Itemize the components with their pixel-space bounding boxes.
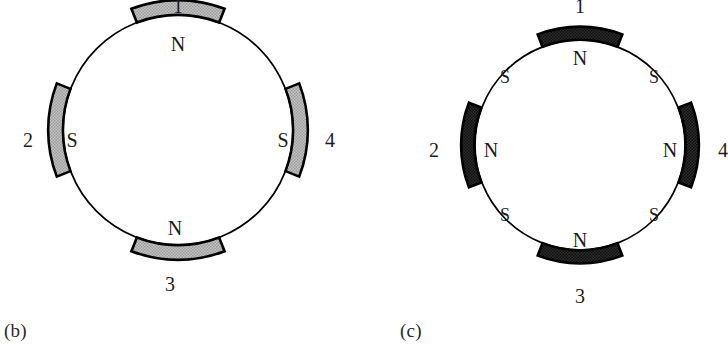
polarity-label-c-bottom: N	[573, 229, 587, 252]
panel-caption-b: (b)	[4, 320, 27, 342]
pole-number-b-2: 2	[23, 129, 33, 152]
polarity-label-c-top: N	[573, 47, 587, 70]
polarity-label-c-left: N	[484, 139, 498, 162]
panel-c: 1 2 3 4 N N N N S S S S (c)	[390, 0, 728, 353]
polarity-label-b-left: S	[66, 129, 77, 152]
panel-b-drawing	[0, 0, 390, 353]
figure-root: 1 2 3 4 N S N S (b)	[0, 0, 728, 353]
pole-number-b-4: 4	[325, 129, 335, 152]
pole-number-c-1: 1	[575, 0, 585, 18]
polarity-label-c-bottom-right: S	[649, 205, 659, 226]
polarity-label-c-top-left: S	[500, 67, 510, 88]
polarity-label-c-top-right: S	[649, 67, 659, 88]
polarity-label-b-top: N	[171, 33, 185, 56]
pole-number-c-4: 4	[718, 139, 728, 162]
panel-b: 1 2 3 4 N S N S (b)	[0, 0, 390, 353]
pole-number-c-3: 3	[575, 285, 585, 308]
polarity-label-b-right: S	[277, 129, 288, 152]
panel-c-drawing	[390, 0, 728, 353]
polarity-label-c-right: N	[663, 139, 677, 162]
polarity-label-c-bottom-left: S	[500, 205, 510, 226]
panel-caption-c: (c)	[400, 320, 422, 342]
polarity-label-b-bottom: N	[168, 217, 182, 240]
pole-number-b-1: 1	[173, 0, 183, 18]
pole-number-c-2: 2	[429, 139, 439, 162]
pole-number-b-3: 3	[165, 273, 175, 296]
